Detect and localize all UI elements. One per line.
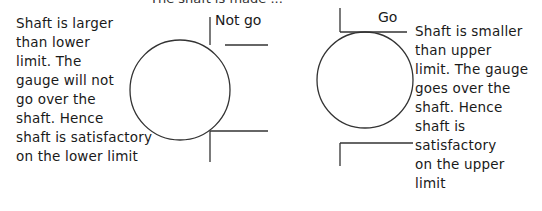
go-label: Go [378,9,397,25]
text-line: gauge will not [16,71,152,90]
text-line: on the upper [415,155,528,174]
not-go-gauge [210,17,268,162]
text-line: go over the [16,90,152,109]
text-line: goes over the [415,79,528,98]
text-line: shaft. Hence [415,98,528,117]
text-line: shaft. Hence [16,109,152,128]
text-line: limit [415,174,528,193]
not-go-label: Not go [215,12,261,28]
go-gauge [340,8,413,166]
text-line: on the lower limit [16,147,152,166]
text-line: than lower [16,33,152,52]
right-explanation: Shaft is smaller than upper limit. The g… [415,22,528,193]
text-line: than upper [415,41,528,60]
text-line: shaft is [415,117,528,136]
text-line: satisfactory [415,136,528,155]
text-line: Shaft is larger [16,14,152,33]
right-shaft-circle [317,32,413,128]
text-line: limit. The gauge [415,60,528,79]
text-line: Shaft is smaller [415,22,528,41]
text-line: limit. The [16,52,152,71]
text-line: shaft is satisfactory [16,128,152,147]
left-explanation: Shaft is larger than lower limit. The ga… [16,14,152,166]
